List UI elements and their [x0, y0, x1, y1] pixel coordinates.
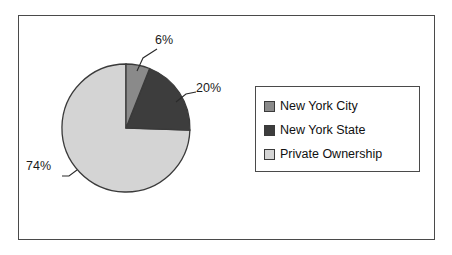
pie-label-new-york-city: 6%: [155, 33, 173, 47]
legend-item-label: New York City: [280, 100, 358, 113]
legend-swatch-icon: [264, 149, 275, 160]
pie-label-private-ownership: 74%: [26, 159, 51, 173]
legend-item-private-ownership[interactable]: Private Ownership: [264, 142, 419, 166]
legend-swatch-icon: [264, 125, 275, 136]
legend-item-label: New York State: [280, 124, 365, 137]
chart-legend: New York City New York State Private Own…: [255, 86, 420, 172]
pie-label-new-york-state: 20%: [196, 81, 221, 95]
legend-item-new-york-state[interactable]: New York State: [264, 118, 419, 142]
legend-swatch-icon: [264, 101, 275, 112]
leader-line-74: [62, 170, 77, 176]
legend-item-label: Private Ownership: [280, 148, 382, 161]
legend-item-new-york-city[interactable]: New York City: [264, 94, 419, 118]
